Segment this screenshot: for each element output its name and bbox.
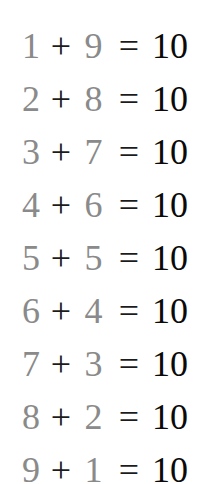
addend-b: 2	[84, 391, 103, 444]
equation-row: 8 + 2 = 10	[0, 391, 220, 444]
result: 10	[150, 179, 190, 232]
addend-a: 6	[22, 285, 39, 338]
result: 10	[150, 20, 190, 73]
equation-row: 2 + 8 = 10	[0, 73, 220, 126]
addend-a: 3	[22, 126, 39, 179]
addend-a: 4	[22, 179, 39, 232]
equals-sign: =	[113, 179, 145, 232]
equals-sign: =	[113, 126, 145, 179]
equation-row: 5 + 5 = 10	[0, 232, 220, 285]
equation-row: 3 + 7 = 10	[0, 126, 220, 179]
equation-row: 1 + 9 = 10	[0, 20, 220, 73]
equals-sign: =	[113, 338, 145, 391]
plus-sign: +	[48, 391, 74, 444]
addend-b: 6	[84, 179, 103, 232]
addend-b: 3	[84, 338, 103, 391]
equals-sign: =	[113, 444, 145, 484]
plus-sign: +	[48, 179, 74, 232]
plus-sign: +	[48, 126, 74, 179]
plus-sign: +	[48, 285, 74, 338]
result: 10	[150, 285, 190, 338]
equation-row: 9 + 1 = 10	[0, 444, 220, 484]
addend-b: 1	[84, 444, 103, 484]
equals-sign: =	[113, 285, 145, 338]
result: 10	[150, 391, 190, 444]
equals-sign: =	[113, 391, 145, 444]
addend-a: 1	[22, 20, 39, 73]
addend-b: 9	[84, 20, 103, 73]
addend-b: 7	[84, 126, 103, 179]
equation-row: 4 + 6 = 10	[0, 179, 220, 232]
result: 10	[150, 126, 190, 179]
addend-a: 5	[22, 232, 39, 285]
result: 10	[150, 73, 190, 126]
addend-a: 2	[22, 73, 39, 126]
plus-sign: +	[48, 338, 74, 391]
equation-row: 6 + 4 = 10	[0, 285, 220, 338]
equals-sign: =	[113, 20, 145, 73]
addend-b: 5	[84, 232, 103, 285]
result: 10	[150, 444, 190, 484]
result: 10	[150, 232, 190, 285]
plus-sign: +	[48, 444, 74, 484]
addend-b: 4	[84, 285, 103, 338]
addend-a: 9	[22, 444, 39, 484]
plus-sign: +	[48, 232, 74, 285]
addend-a: 8	[22, 391, 39, 444]
plus-sign: +	[48, 20, 74, 73]
equals-sign: =	[113, 232, 145, 285]
result: 10	[150, 338, 190, 391]
addend-b: 8	[84, 73, 103, 126]
equals-sign: =	[113, 73, 145, 126]
equation-row: 7 + 3 = 10	[0, 338, 220, 391]
addend-a: 7	[22, 338, 39, 391]
plus-sign: +	[48, 73, 74, 126]
